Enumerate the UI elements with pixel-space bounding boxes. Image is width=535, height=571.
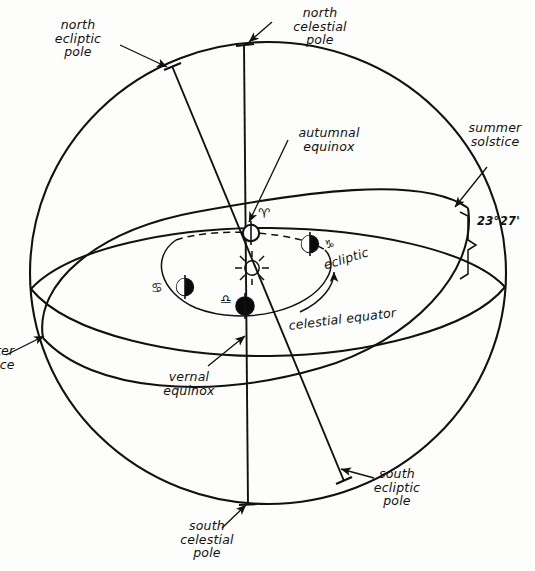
celestial-sphere-outline [30,42,506,504]
diagram-page: north ecliptic pole north celestial pole… [0,0,535,571]
celestial-sphere-figure [0,0,535,571]
zodiac-capricorn-icon: ♑ [324,239,334,251]
earth-at-cancer [177,275,194,299]
label-south-celestial-pole: south celestial pole [159,519,255,560]
label-south-ecliptic-pole: south ecliptic pole [357,467,437,508]
celestial-equator-circle [31,228,505,356]
label-north-ecliptic-pole: north ecliptic pole [28,18,128,59]
obliquity-brace [460,212,476,279]
zodiac-cancer-icon: ♋ [151,281,163,294]
label-obliquity-angle: 23°27' [477,215,535,229]
earth-at-capricorn [302,232,319,256]
zodiac-aries-icon: ♈ [258,207,270,220]
label-north-celestial-pole: north celestial pole [272,6,368,47]
label-vernal-equinox: vernal equinox [143,370,235,397]
label-summer-solstice: summer solstice [454,121,535,148]
sun-symbol [235,251,269,285]
label-autumnal-equinox: autumnal equinox [281,126,377,153]
ecliptic-circle [42,189,469,387]
zodiac-libra-icon: ♎ [220,293,232,306]
orbital-motion-arrow [300,272,334,312]
label-winter-solstice-clipped: ter ice [0,344,36,371]
